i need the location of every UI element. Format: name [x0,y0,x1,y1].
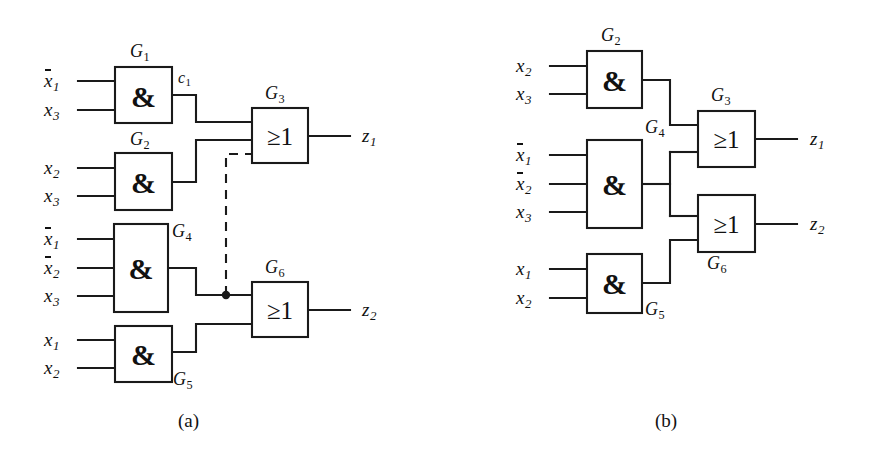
gate-b-g5-symbol: & [602,267,627,300]
label-b-output-z1: z1 [810,129,824,152]
label-b-input-1: x2 [516,56,531,79]
caption-b: (b) [655,411,677,430]
gate-b-g2-symbol: & [602,64,627,97]
wire-b-g5-to-g6 [642,240,698,283]
panel-a-gates: & & ≥1 & & ≥1 [114,67,308,382]
label-b-gate-g3: G3 [711,86,731,107]
circuit-figure: & & ≥1 & & ≥1 [0,0,872,455]
label-a-input-8: x1 [44,330,59,353]
label-a-input-5: x1 [44,229,59,252]
gate-b-g4-symbol: & [602,168,627,201]
gate-b-g3-symbol: ≥1 [713,126,739,153]
label-a-net-c1: c1 [178,70,191,88]
gate-a-g6-symbol: ≥1 [267,297,293,324]
gate-b-g6-symbol: ≥1 [713,211,739,238]
label-b-input-7: x2 [516,288,531,311]
circuit-svg: & & ≥1 & & ≥1 [0,0,872,455]
wire-a-g1-to-g3 [172,95,252,122]
label-a-input-1: x1 [44,71,59,94]
caption-a: (a) [178,411,199,430]
label-b-gate-g5: G5 [645,300,665,321]
label-a-input-7: x3 [44,286,59,309]
wire-a-dashed-bridge [226,154,252,295]
wire-a-g5-to-g6 [172,324,252,352]
junction-dot-a [222,291,230,299]
label-b-gate-g2: G2 [601,26,621,47]
label-a-output-z2: z2 [362,300,376,323]
gate-a-g4-symbol: & [129,252,154,285]
wire-a-g4-to-g6 [168,268,252,295]
label-a-gate-g3: G3 [265,84,285,105]
label-b-input-5: x3 [516,202,531,225]
label-a-input-6: x2 [44,258,59,281]
label-b-input-4: x2 [516,174,531,197]
label-a-gate-g1: G1 [130,42,150,63]
label-a-gate-g5: G5 [173,370,193,391]
label-b-output-z2: z2 [810,214,824,237]
label-b-input-3: x1 [516,145,531,168]
label-a-gate-g2: G2 [130,130,150,151]
gate-a-g3-symbol: ≥1 [267,123,293,150]
label-b-gate-g6: G6 [707,254,727,275]
label-a-input-3: x2 [44,158,59,181]
label-a-input-2: x3 [44,100,59,123]
label-a-gate-g4: G4 [172,222,192,243]
label-b-gate-g4: G4 [645,118,665,139]
label-a-gate-g6: G6 [265,258,285,279]
wire-a-g2-to-g3 [172,140,252,182]
label-b-input-6: x1 [516,259,531,282]
label-b-input-2: x3 [516,84,531,107]
gate-a-g2-symbol: & [131,166,156,199]
label-a-input-4: x3 [44,186,59,209]
gate-a-g1-symbol: & [131,80,156,113]
label-a-input-9: x2 [44,358,59,381]
gate-a-g5-symbol: & [131,338,156,371]
label-a-output-z1: z1 [362,126,376,149]
